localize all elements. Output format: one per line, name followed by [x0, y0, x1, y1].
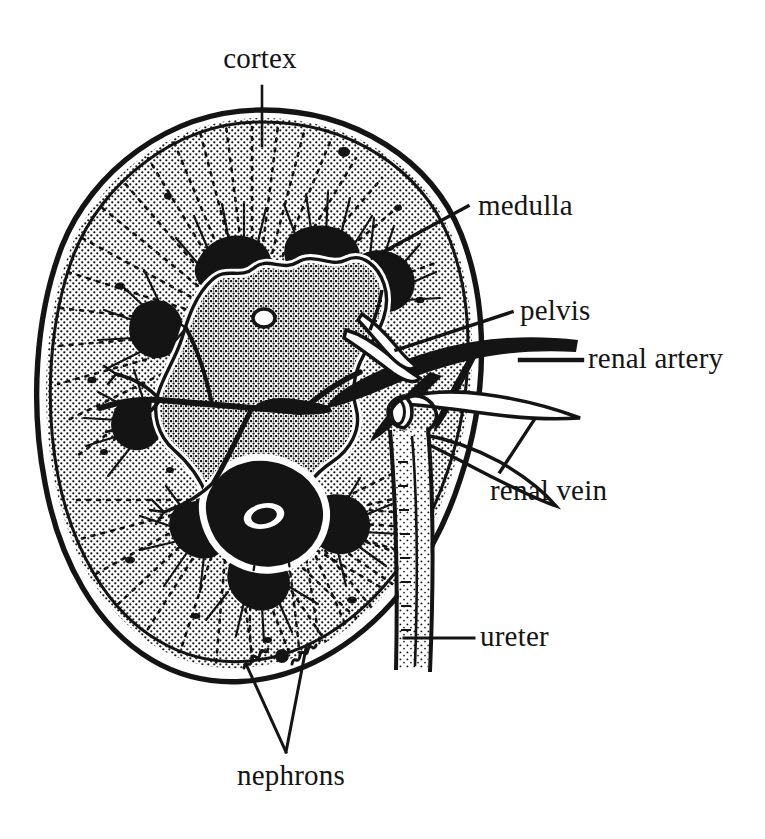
label-pelvis: pelvis — [520, 294, 590, 326]
kidney-diagram-svg: cortex medulla pelvis renal artery renal… — [0, 0, 765, 839]
label-renal-vein: renal vein — [490, 474, 607, 506]
label-renal-artery: renal artery — [588, 342, 724, 374]
renal-sinus-opening — [253, 309, 275, 327]
kidney-diagram-figure: cortex medulla pelvis renal artery renal… — [0, 0, 765, 839]
label-ureter: ureter — [480, 620, 549, 652]
label-nephrons: nephrons — [237, 759, 345, 791]
label-medulla: medulla — [478, 189, 573, 221]
label-cortex: cortex — [223, 42, 297, 74]
ureter-structure — [388, 396, 437, 672]
